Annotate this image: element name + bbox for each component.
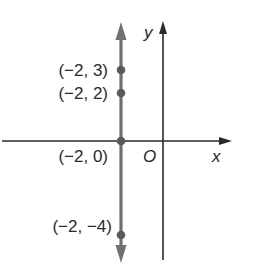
line-down-arrow-icon	[116, 245, 127, 263]
point-label-neg2-0: (−2, 0)	[58, 147, 108, 166]
point-neg2-0	[117, 137, 126, 146]
point-neg2-neg4	[117, 231, 126, 240]
x-axis-label: x	[211, 147, 221, 166]
line-up-arrow-icon	[116, 22, 127, 40]
point-label-neg2-2: (−2, 2)	[58, 84, 108, 103]
x-axis-arrow-icon	[219, 137, 232, 145]
origin-label: O	[143, 147, 156, 166]
point-neg2-2	[117, 89, 126, 98]
y-axis-arrow-icon	[159, 21, 167, 34]
point-neg2-3	[117, 66, 126, 75]
point-label-neg2-neg4: (−2, −4)	[52, 217, 112, 236]
y-axis-label: y	[143, 23, 154, 42]
point-label-neg2-3: (−2, 3)	[58, 61, 108, 80]
coordinate-plane: (−2, 3) (−2, 2) (−2, 0) (−2, −4) y x O	[0, 0, 253, 270]
